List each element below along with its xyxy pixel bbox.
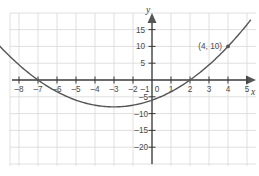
x-tick-label: 2 bbox=[188, 85, 193, 94]
x-tick-label-origin: 0 bbox=[155, 85, 160, 94]
point-label-4-10: (4, 10) bbox=[198, 42, 222, 51]
y-tick-label: –20 bbox=[134, 143, 148, 152]
x-tick-label: –3 bbox=[109, 85, 119, 94]
x-tick-label: –5 bbox=[71, 85, 81, 94]
y-tick-label: 10 bbox=[136, 42, 146, 51]
coordinate-plane: –8 –7 –6 –5 –4 –3 –2 –1 0 1 2 3 4 5 15 1… bbox=[0, 0, 259, 176]
y-tick-label: –15 bbox=[134, 126, 148, 135]
x-tick-label: 3 bbox=[207, 85, 212, 94]
y-tick-label: 15 bbox=[136, 26, 146, 35]
x-axis-label: x bbox=[250, 87, 256, 97]
x-tick-label: –2 bbox=[128, 85, 138, 94]
y-tick-label: –5 bbox=[139, 93, 149, 102]
y-tick-label: –10 bbox=[134, 110, 148, 119]
point-marker-4-10 bbox=[226, 45, 230, 49]
x-tick-labels: –8 –7 –6 –5 –4 –3 –2 –1 0 1 2 3 4 5 bbox=[14, 85, 249, 94]
x-tick-label: 5 bbox=[245, 85, 250, 94]
y-tick-label: 5 bbox=[140, 59, 145, 68]
y-axis-label: y bbox=[145, 5, 151, 15]
x-tick-label: –7 bbox=[33, 85, 43, 94]
x-tick-label: –4 bbox=[90, 85, 100, 94]
x-tick-label: 4 bbox=[226, 85, 231, 94]
x-tick-label: –8 bbox=[14, 85, 24, 94]
graph-figure: –8 –7 –6 –5 –4 –3 –2 –1 0 1 2 3 4 5 15 1… bbox=[0, 0, 259, 176]
x-axis bbox=[12, 76, 256, 85]
